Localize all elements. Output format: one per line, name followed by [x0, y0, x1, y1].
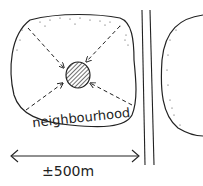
- adjacent-stipple: [166, 29, 180, 125]
- road-edge-right: [150, 10, 154, 165]
- distance-label: ±500m: [42, 163, 94, 179]
- adjacent-area-boundary: [161, 15, 203, 136]
- center-point: [66, 62, 90, 88]
- neighbourhood-diagram: neighbourhood ±500m: [0, 0, 203, 186]
- road-edge-left: [142, 10, 145, 165]
